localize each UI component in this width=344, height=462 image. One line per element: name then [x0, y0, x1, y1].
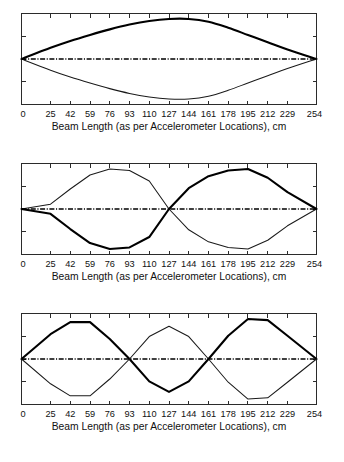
x-tick-label: 76 [105, 409, 115, 419]
x-tick-label: 0 [20, 109, 25, 119]
x-tick-label: 59 [85, 409, 95, 419]
x-tick-label: 178 [221, 109, 236, 119]
x-tick-label: 25 [45, 259, 55, 269]
x-tick-label: 212 [260, 409, 275, 419]
plot-area-3: 02542597693110127144161178195212229254Be… [20, 314, 322, 432]
x-tick-label: 229 [280, 109, 295, 119]
x-tick-label: 42 [65, 409, 75, 419]
x-tick-label: 93 [124, 259, 134, 269]
x-tick-label: 212 [260, 259, 275, 269]
x-tick-label: 59 [85, 259, 95, 269]
x-tick-label: 195 [240, 409, 255, 419]
mode-shape-panel-3: 02542597693110127144161178195212229254Be… [0, 300, 344, 450]
x-tick-label: 144 [181, 409, 196, 419]
x-tick-label: 76 [105, 259, 115, 269]
mode-shape-curve-mirror [22, 59, 317, 99]
x-tick-label: 254 [307, 109, 322, 119]
x-tick-label: 178 [221, 259, 236, 269]
mode-shape-plot-1: 02542597693110127144161178195212229254Be… [0, 0, 344, 150]
x-tick-label: 0 [20, 409, 25, 419]
x-tick-label: 110 [142, 259, 157, 269]
mode-shape-curve-primary [22, 19, 317, 59]
x-tick-label: 229 [280, 259, 295, 269]
x-tick-label: 25 [45, 409, 55, 419]
mode-shape-plot-2: 02542597693110127144161178195212229254Be… [0, 150, 344, 300]
mode-shape-plot-3: 02542597693110127144161178195212229254Be… [0, 300, 344, 452]
x-tick-label: 59 [85, 109, 95, 119]
x-tick-label: 110 [142, 409, 157, 419]
x-tick-label: 0 [20, 259, 25, 269]
x-tick-label: 144 [181, 109, 196, 119]
x-tick-label: 110 [142, 109, 157, 119]
x-tick-label: 212 [260, 109, 275, 119]
x-tick-label: 254 [307, 409, 322, 419]
x-tick-label: 144 [181, 259, 196, 269]
x-tick-label: 178 [221, 409, 236, 419]
x-tick-label: 254 [307, 259, 322, 269]
mode-shape-curve-primary [22, 319, 317, 392]
x-tick-label: 127 [161, 109, 176, 119]
x-tick-label: 42 [65, 259, 75, 269]
x-axis-title: Beam Length (as per Accelerometer Locati… [52, 421, 287, 432]
x-tick-label: 229 [280, 409, 295, 419]
x-tick-label: 76 [105, 109, 115, 119]
plot-area-2: 02542597693110127144161178195212229254Be… [20, 164, 322, 282]
x-tick-label: 25 [45, 109, 55, 119]
mode-shape-panel-2: 02542597693110127144161178195212229254Be… [0, 150, 344, 300]
x-axis-title: Beam Length (as per Accelerometer Locati… [52, 121, 287, 132]
x-tick-label: 93 [124, 409, 134, 419]
x-axis-title: Beam Length (as per Accelerometer Locati… [52, 271, 287, 282]
x-tick-label: 93 [124, 109, 134, 119]
beam-mode-shapes-figure: 02542597693110127144161178195212229254Be… [0, 0, 344, 462]
x-tick-label: 127 [161, 409, 176, 419]
mode-shape-curve-mirror [22, 326, 317, 399]
x-tick-label: 127 [161, 259, 176, 269]
plot-area-1: 02542597693110127144161178195212229254Be… [20, 14, 322, 132]
x-tick-label: 42 [65, 109, 75, 119]
x-tick-label: 161 [201, 409, 216, 419]
x-tick-label: 195 [240, 259, 255, 269]
x-tick-label: 161 [201, 259, 216, 269]
mode-shape-panel-1: 02542597693110127144161178195212229254Be… [0, 0, 344, 150]
x-tick-label: 161 [201, 109, 216, 119]
x-tick-label: 195 [240, 109, 255, 119]
